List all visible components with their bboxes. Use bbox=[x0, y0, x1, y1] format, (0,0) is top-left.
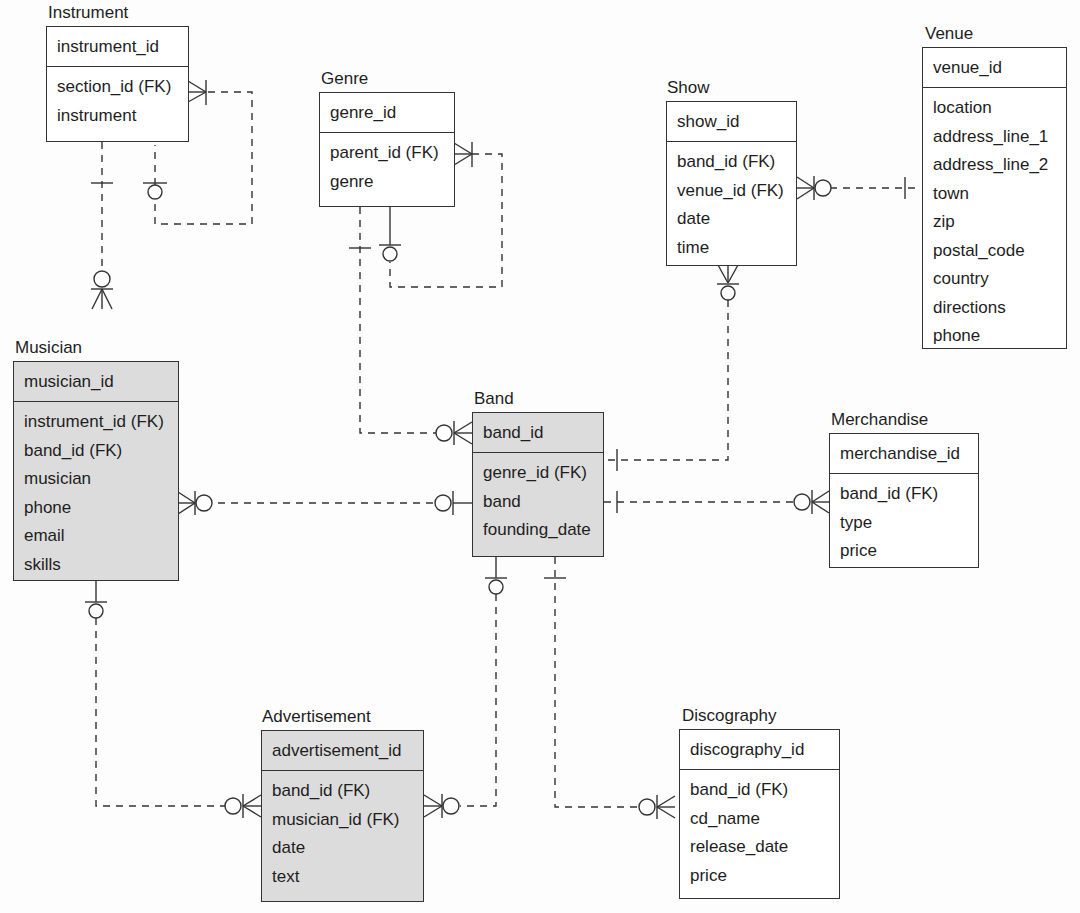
attribute: zip bbox=[933, 208, 1056, 237]
rel-musician-advertisement bbox=[85, 581, 261, 818]
entity-discography: discography_id band_id (FK) cd_name rele… bbox=[679, 729, 840, 899]
attribute: town bbox=[933, 180, 1056, 209]
entity-title-merchandise: Merchandise bbox=[831, 410, 928, 430]
attribute: location bbox=[933, 94, 1056, 123]
rel-band-discography bbox=[544, 557, 675, 819]
pk-field: venue_id bbox=[923, 48, 1066, 88]
pk-field: discography_id bbox=[680, 730, 839, 770]
attribute: type bbox=[840, 509, 968, 538]
pk-field: merchandise_id bbox=[830, 434, 978, 474]
entity-musician: musician_id instrument_id (FK) band_id (… bbox=[13, 361, 179, 581]
attribute: founding_date bbox=[483, 516, 593, 545]
entity-genre: genre_id parent_id (FK) genre bbox=[319, 92, 455, 207]
attribute: date bbox=[272, 834, 413, 863]
pk-field: show_id bbox=[667, 102, 796, 142]
entity-title-genre: Genre bbox=[321, 69, 368, 89]
attribute: cd_name bbox=[690, 805, 829, 834]
entity-title-advertisement: Advertisement bbox=[262, 707, 371, 727]
attribute: band_id (FK) bbox=[677, 148, 786, 177]
pk-field: musician_id bbox=[14, 362, 178, 402]
rel-band-musician bbox=[178, 491, 472, 515]
rel-instrument-musician bbox=[91, 142, 113, 309]
attribute: country bbox=[933, 265, 1056, 294]
rel-venue-show bbox=[797, 176, 920, 200]
entity-advertisement: advertisement_id band_id (FK) musician_i… bbox=[261, 730, 424, 902]
entity-title-musician: Musician bbox=[15, 338, 82, 358]
pk-field: band_id bbox=[473, 413, 603, 453]
attribute: instrument bbox=[57, 102, 178, 131]
rel-band-show bbox=[604, 265, 739, 471]
attribute: band_id (FK) bbox=[272, 777, 413, 806]
attribute: address_line_1 bbox=[933, 123, 1056, 152]
pk-field: genre_id bbox=[320, 93, 454, 133]
attribute: band bbox=[483, 488, 593, 517]
entity-title-discography: Discography bbox=[682, 706, 777, 726]
pk-field: advertisement_id bbox=[262, 731, 423, 771]
rel-band-merchandise bbox=[604, 490, 829, 514]
attribute: band_id (FK) bbox=[840, 480, 968, 509]
attribute: instrument_id (FK) bbox=[24, 408, 168, 437]
attribute: phone bbox=[933, 322, 1056, 351]
attribute: band_id (FK) bbox=[24, 437, 168, 466]
attribute: venue_id (FK) bbox=[677, 177, 786, 206]
entity-title-venue: Venue bbox=[925, 24, 973, 44]
pk-field: instrument_id bbox=[47, 27, 188, 67]
entity-instrument: instrument_id section_id (FK) instrument bbox=[46, 26, 189, 142]
rel-genre-band bbox=[349, 207, 472, 445]
entity-title-band: Band bbox=[474, 389, 514, 409]
entity-show: show_id band_id (FK) venue_id (FK) date … bbox=[666, 101, 797, 266]
entity-title-instrument: Instrument bbox=[48, 3, 128, 23]
entity-merchandise: merchandise_id band_id (FK) type price bbox=[829, 433, 979, 568]
rel-band-advertisement bbox=[424, 557, 507, 818]
attribute: band_id (FK) bbox=[690, 776, 829, 805]
attribute: section_id (FK) bbox=[57, 73, 178, 102]
entity-venue: venue_id location address_line_1 address… bbox=[922, 47, 1067, 349]
attribute: genre_id (FK) bbox=[483, 459, 593, 488]
attribute: date bbox=[677, 205, 786, 234]
attribute: price bbox=[690, 862, 829, 891]
attribute: price bbox=[840, 537, 968, 566]
attribute: parent_id (FK) bbox=[330, 139, 444, 168]
attribute: musician_id (FK) bbox=[272, 806, 413, 835]
attribute: time bbox=[677, 234, 786, 263]
attribute: address_line_2 bbox=[933, 151, 1056, 180]
attribute: directions bbox=[933, 294, 1056, 323]
attribute: skills bbox=[24, 551, 168, 580]
attribute: musician bbox=[24, 465, 168, 494]
attribute: text bbox=[272, 863, 413, 892]
attribute: postal_code bbox=[933, 237, 1056, 266]
attribute: release_date bbox=[690, 833, 829, 862]
entity-title-show: Show bbox=[667, 78, 710, 98]
attribute: email bbox=[24, 522, 168, 551]
attribute: phone bbox=[24, 494, 168, 523]
er-diagram: Instrument instrument_id section_id (FK)… bbox=[0, 0, 1080, 913]
entity-band: band_id genre_id (FK) band founding_date bbox=[472, 412, 604, 557]
attribute: genre bbox=[330, 168, 444, 197]
